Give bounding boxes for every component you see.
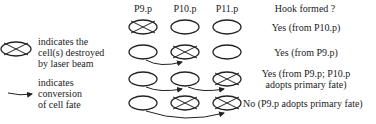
row-1-result: Yes (from P10.p)	[258, 22, 354, 33]
row-2-cells	[129, 45, 241, 65]
row-3-cells	[129, 72, 241, 91]
column-header-p9p: P9.p	[123, 3, 163, 14]
legend-destroyed-text: indicates the cell(s) destroyed by laser…	[38, 36, 104, 69]
legend-curved-arrow-icon	[8, 93, 32, 95]
result-header: Hook formed ?	[260, 3, 350, 14]
column-header-p11p: P11.p	[207, 3, 247, 14]
legend-crossed-ellipse-icon	[1, 42, 31, 56]
row-4-cells	[129, 96, 241, 118]
row-1-cells	[129, 20, 241, 34]
row-4-result: No (P9.p adopts primary fate)	[243, 98, 363, 109]
column-header-p10p: P10.p	[165, 3, 205, 14]
row-2-result: Yes (from P9.p)	[258, 47, 354, 58]
row-3-result: Yes (from P9.p; P10.p adopts primary fat…	[250, 68, 362, 90]
legend-conversion-text: indicates conversion of cell fate	[38, 77, 82, 110]
